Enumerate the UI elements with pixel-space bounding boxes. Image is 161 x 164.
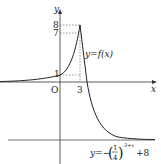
origin-label: O [51, 85, 58, 95]
svg-text:(: ( [108, 145, 113, 161]
svg-text:+8: +8 [136, 148, 150, 158]
svg-text:): ) [118, 145, 123, 161]
svg-text:3+x: 3+x [124, 142, 134, 148]
function-graph: y x O 8 7 1 3 y=f(x) y=− 1 4 ( ) 3+x +8 [0, 0, 161, 164]
tick-3: 3 [77, 85, 83, 95]
svg-text:1: 1 [113, 144, 117, 152]
curve-left [0, 25, 80, 82]
x-axis-label: x [151, 84, 156, 94]
curve-label-f: y=f(x) [84, 49, 114, 59]
tick-1: 1 [54, 69, 60, 79]
y-axis-label: y [53, 4, 60, 14]
curve-label-exponential: y=− 1 4 ( ) 3+x +8 [89, 142, 150, 162]
tick-7: 7 [53, 28, 59, 38]
svg-text:y=−: y=− [89, 148, 110, 158]
